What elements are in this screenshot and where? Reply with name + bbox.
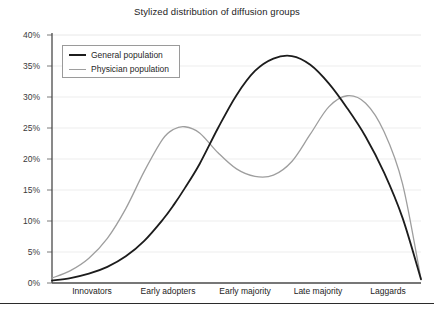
chart-figure: Stylized distribution of diffusion group… (0, 0, 434, 315)
axis-ticks (47, 35, 52, 283)
x-tick-label-innovators: Innovators (72, 286, 112, 296)
x-tick-label-early-adopters: Early adopters (141, 286, 196, 296)
bottom-divider (0, 303, 434, 304)
legend-swatch-icon (69, 54, 86, 56)
legend-label: Physician population (91, 64, 169, 74)
series-line-general (52, 56, 421, 281)
legend-swatch-icon (69, 69, 86, 70)
x-tick-label-late-majority: Late majority (294, 286, 343, 296)
x-tick-label-early-majority: Early majority (219, 286, 270, 296)
legend-item-physician: Physician population (69, 62, 169, 76)
x-tick-label-laggards: Laggards (370, 286, 405, 296)
chart-legend: General population Physician population (62, 45, 180, 78)
legend-item-general: General population (69, 48, 163, 62)
legend-label: General population (91, 50, 163, 60)
